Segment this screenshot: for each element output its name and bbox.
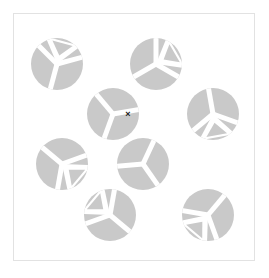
x-marker: ×: [125, 109, 130, 119]
stimulus-canvas: ×: [0, 0, 269, 278]
stimulus-stage: ×: [0, 0, 269, 278]
x-marker-layer: ×: [125, 109, 130, 119]
disc-spoke: [113, 164, 143, 167]
